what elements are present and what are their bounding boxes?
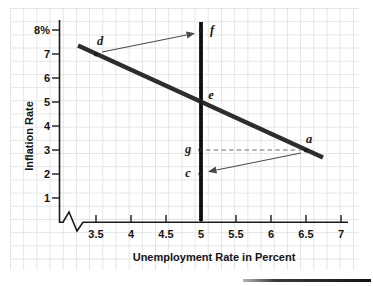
x-axis-title: Unemployment Rate in Percent bbox=[133, 251, 296, 263]
x-tick-label-5-5: 5.5 bbox=[218, 228, 254, 240]
y-tick-label-1: 1 bbox=[18, 192, 50, 204]
point-dot-f bbox=[199, 28, 203, 32]
y-tick-label-6: 6 bbox=[18, 72, 50, 84]
bottom-divider-bar bbox=[243, 279, 371, 282]
x-tick-label-5: 5 bbox=[183, 228, 219, 240]
point-dot-c bbox=[198, 172, 202, 176]
x-tick-label-6-5: 6.5 bbox=[288, 228, 324, 240]
point-dot-g bbox=[198, 148, 202, 152]
point-label-g: g bbox=[185, 143, 191, 155]
x-tick-label-7: 7 bbox=[323, 228, 359, 240]
point-dot-e bbox=[199, 100, 203, 104]
x-tick-label-6: 6 bbox=[253, 228, 289, 240]
point-label-d: d bbox=[97, 35, 103, 47]
point-label-a: a bbox=[306, 133, 312, 145]
y-axis-title: Inflation Rate bbox=[23, 101, 35, 171]
y-axis-ticks bbox=[52, 30, 59, 198]
arrow-a-to-c bbox=[209, 153, 301, 172]
y-tick-label-8: 8% bbox=[18, 24, 50, 36]
point-label-c: c bbox=[185, 167, 191, 179]
x-tick-label-4: 4 bbox=[113, 228, 149, 240]
point-dot-a bbox=[304, 148, 308, 152]
point-label-f: f bbox=[210, 24, 214, 36]
y-tick-label-7: 7 bbox=[18, 48, 50, 60]
x-axis-ticks bbox=[96, 215, 341, 222]
arrow-d-to-f bbox=[102, 34, 194, 53]
phillips-curve-figure: 8% 7 6 5 4 3 2 1 3.5 4 4.5 5 5.5 6 6.5 7… bbox=[0, 0, 373, 286]
x-tick-label-3-5: 3.5 bbox=[78, 228, 114, 240]
x-tick-label-4-5: 4.5 bbox=[148, 228, 184, 240]
point-label-e: e bbox=[208, 89, 214, 101]
point-dot-d bbox=[94, 52, 98, 56]
